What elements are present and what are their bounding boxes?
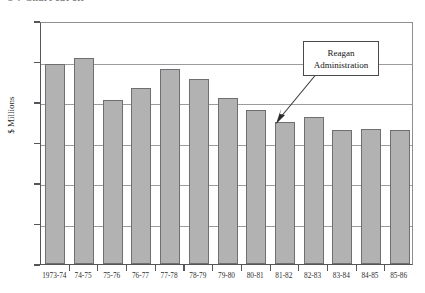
- x-axis-tick-label: 84-85: [361, 271, 378, 280]
- x-axis-tick-mark: [356, 265, 357, 271]
- bar: [131, 88, 151, 264]
- x-axis-tick-mark: [69, 265, 70, 271]
- reagan-administration-annotation: Reagan Administration: [303, 41, 379, 76]
- x-axis-tick-mark: [126, 265, 127, 271]
- x-axis-tick-label: 85-86: [390, 271, 407, 280]
- bar: [103, 100, 123, 264]
- x-axis-tick-label: 1973-74: [42, 271, 66, 280]
- bar: [160, 69, 180, 264]
- annotation-arrow-icon: [270, 70, 322, 128]
- bar: [246, 110, 266, 264]
- annotation-line-2: Administration: [314, 59, 369, 71]
- bar: [218, 98, 238, 264]
- bar: [332, 130, 352, 264]
- x-axis-tick-label: 80-81: [247, 271, 264, 280]
- x-axis-tick-label: 81-82: [275, 271, 292, 280]
- x-axis-tick-mark: [384, 265, 385, 271]
- x-axis-tick-label: 74-75: [75, 271, 92, 280]
- x-axis-tick-mark: [155, 265, 156, 271]
- x-axis-tick-label: 77-78: [161, 271, 178, 280]
- bar: [45, 64, 65, 264]
- x-axis-tick-mark: [241, 265, 242, 271]
- x-axis-tick-mark: [327, 265, 328, 271]
- x-axis-tick-mark: [97, 265, 98, 271]
- bar: [189, 79, 209, 264]
- x-axis-tick-mark: [298, 265, 299, 271]
- x-axis-tick-label: 78-79: [189, 271, 206, 280]
- bar: [304, 117, 324, 264]
- annotation-line-1: Reagan: [328, 47, 355, 59]
- bar: [390, 130, 410, 264]
- x-axis-tick-mark: [212, 265, 213, 271]
- x-axis-tick-label: 79-80: [218, 271, 235, 280]
- x-axis-tick-label: 75-76: [103, 271, 120, 280]
- bar: [275, 122, 295, 264]
- bar: [74, 58, 94, 264]
- x-axis-tick-mark: [270, 265, 271, 271]
- x-axis-tick-label: 82-83: [304, 271, 321, 280]
- bar: [361, 129, 381, 264]
- y-axis-label: $ Millions: [6, 70, 16, 160]
- x-axis-tick-label: 83-84: [333, 271, 350, 280]
- x-axis-tick-label: 76-77: [132, 271, 149, 280]
- x-axis-tick-mark: [183, 265, 184, 271]
- bar-chart: $ Millions 024681012 1973-7474-7575-7676…: [0, 0, 425, 293]
